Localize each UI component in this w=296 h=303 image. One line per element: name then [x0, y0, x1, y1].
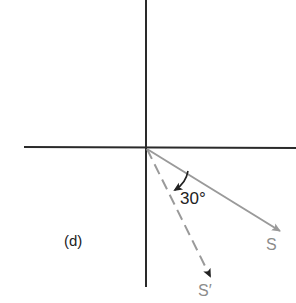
panel-label: (d) [64, 232, 82, 249]
vector-s-prime-label: S′ [198, 282, 212, 300]
horizontal-axis [24, 147, 296, 148]
diagram-canvas [0, 0, 296, 303]
vector-s [147, 149, 280, 231]
vector-s-label: S [266, 236, 277, 254]
angle-label: 30° [180, 189, 206, 209]
